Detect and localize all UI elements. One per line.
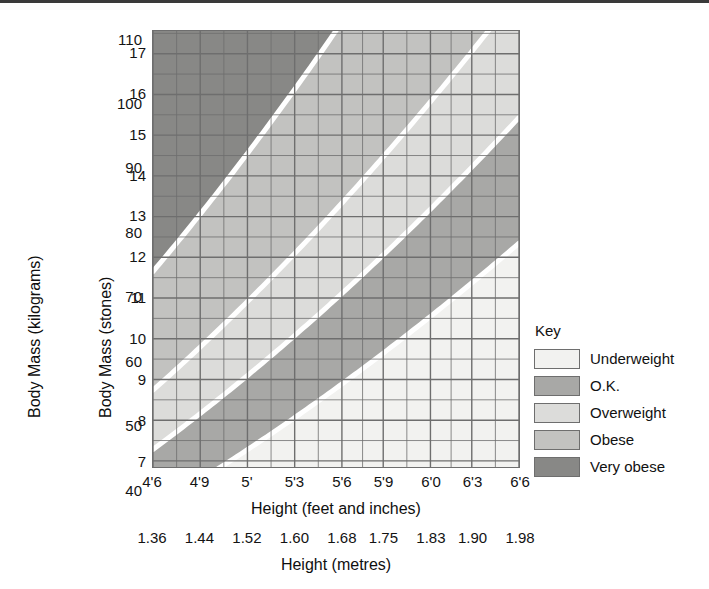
tick-st-2: 15 [124, 126, 146, 143]
tick-st-3: 14 [124, 167, 146, 184]
tick-kg-5: 60 [98, 353, 142, 370]
tick-kg-3: 80 [98, 224, 142, 241]
bmi-chart-page: Body Mass (kilograms) Body Mass (stones)… [0, 0, 709, 589]
key-item-label: Underweight [590, 350, 674, 367]
key-item-label: Overweight [590, 404, 666, 421]
key-title: Key [535, 322, 704, 339]
key-swatch-icon-2 [534, 403, 580, 423]
key-swatch-icon-1 [534, 376, 580, 396]
tick-st-0: 17 [124, 44, 146, 61]
key-item-underweight: Underweight [534, 345, 704, 372]
x-axis-title-metres: Height (metres) [0, 556, 672, 574]
key-item-label: O.K. [590, 377, 620, 394]
y-axis-title-kilograms: Body Mass (kilograms) [26, 255, 44, 418]
key-swatch-icon-0 [534, 349, 580, 369]
tick-st-4: 13 [124, 207, 146, 224]
key-item-list: UnderweightO.K.OverweightObeseVery obese [534, 345, 704, 480]
tick-st-7: 10 [124, 330, 146, 347]
chart-key: Key UnderweightO.K.OverweightObeseVery o… [534, 322, 704, 480]
key-swatch-icon-4 [534, 457, 580, 477]
tick-st-10: 7 [124, 453, 146, 470]
key-item-o-k: O.K. [534, 372, 704, 399]
top-border-rule [0, 0, 709, 3]
key-swatch-icon-3 [534, 430, 580, 450]
key-item-label: Very obese [590, 458, 665, 475]
tick-m-8: 1.98 [492, 529, 548, 546]
tick-st-8: 9 [124, 371, 146, 388]
x-axis-title-feet-inches: Height (feet and inches) [0, 500, 672, 518]
tick-st-5: 12 [124, 248, 146, 265]
tick-st-6: 11 [124, 289, 146, 306]
key-item-overweight: Overweight [534, 399, 704, 426]
key-item-label: Obese [590, 431, 634, 448]
tick-st-1: 16 [124, 85, 146, 102]
key-item-obese: Obese [534, 426, 704, 453]
chart-plot-area [152, 30, 520, 468]
tick-st-9: 8 [124, 412, 146, 429]
key-item-very-obese: Very obese [534, 453, 704, 480]
chart-gridlines [153, 31, 519, 467]
